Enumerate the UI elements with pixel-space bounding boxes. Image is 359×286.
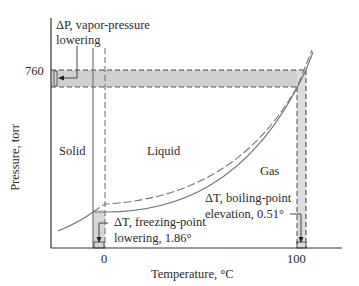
y-axis-label: Pressure, torr — [8, 124, 23, 191]
region-liquid: Liquid — [147, 144, 180, 158]
vapor-pressure-label-line1: ΔP, vapor-pressure — [56, 18, 150, 32]
vapor-pressure-band — [51, 70, 298, 87]
boiling-point-strip — [297, 70, 306, 248]
boiling-point-label-line1: ΔT, boiling-point — [205, 191, 291, 205]
region-solid: Solid — [59, 144, 85, 158]
y-tick-760: 760 — [25, 64, 44, 78]
x-tick-100: 100 — [287, 252, 306, 266]
freezing-point-label-line1: ΔT, freezing-point — [114, 215, 206, 229]
x-axis-label: Temperature, °C — [151, 267, 234, 281]
boiling-point-label-line2: elevation, 0.51° — [205, 207, 284, 221]
vapor-pressure-label-line2: lowering — [56, 33, 100, 47]
x-tick-0: 0 — [101, 252, 107, 266]
freezing-point-label-line2: lowering, 1.86° — [114, 231, 192, 245]
region-gas: Gas — [260, 164, 279, 178]
